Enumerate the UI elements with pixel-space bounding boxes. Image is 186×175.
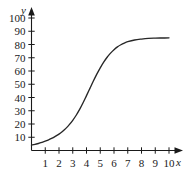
y-tick-label: 50 — [0, 79, 26, 90]
data-series-line — [32, 38, 170, 145]
x-tick-label: 6 — [111, 158, 117, 169]
y-axis-arrow-icon — [28, 7, 35, 16]
y-tick-label: 70 — [0, 52, 26, 63]
y-tick-label: 40 — [0, 92, 26, 103]
x-tick-label: 10 — [164, 158, 175, 169]
x-axis-arrow-icon — [175, 147, 184, 153]
x-tick-label: 7 — [125, 158, 131, 169]
chart-plot-area — [0, 0, 186, 175]
x-tick-label: 5 — [98, 158, 104, 169]
x-tick-label: 8 — [139, 158, 145, 169]
y-tick-label: 20 — [0, 119, 26, 130]
y-tick-label: 30 — [0, 105, 26, 116]
y-tick-label: 80 — [0, 39, 26, 50]
x-tick-label: 1 — [43, 158, 49, 169]
x-tick-label: 4 — [84, 158, 90, 169]
x-tick-label: 9 — [153, 158, 159, 169]
x-tick-label: 3 — [70, 158, 76, 169]
x-axis-label: x — [176, 157, 181, 168]
y-tick-label: 60 — [0, 66, 26, 77]
y-tick-label: 90 — [0, 26, 26, 37]
y-tick-label: 10 — [0, 132, 26, 143]
y-axis-label: y — [21, 5, 26, 16]
chart-figure: 102030405060708090100 12345678910 y x — [0, 0, 186, 175]
x-tick-label: 2 — [56, 158, 62, 169]
